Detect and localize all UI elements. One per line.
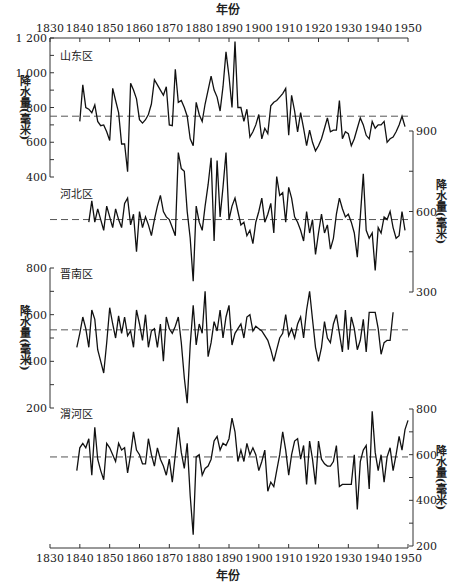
chart-panels: 4006008001 0001 200降水量(毫米)山东区300600900降水…: [16, 32, 449, 553]
top-x-tick-label: 1850: [96, 22, 124, 35]
y-axis-label: 降水量(毫米): [18, 74, 33, 140]
bottom-x-tick-label: 1840: [66, 552, 94, 565]
panel-name: 渭河区: [60, 408, 93, 421]
top-axis-title: 年份: [216, 2, 241, 17]
bottom-x-tick-label: 1880: [185, 552, 213, 565]
precipitation-chart: 1830184018501860187018801890190019101920…: [0, 0, 460, 588]
y-tick-label: 200: [416, 540, 437, 553]
top-x-tick-label: 1880: [185, 22, 213, 35]
top-x-tick-label: 1860: [126, 22, 154, 35]
panel-4: 200400600800降水量(毫米)渭河区: [50, 403, 449, 553]
bottom-x-tick-label: 1860: [126, 552, 154, 565]
bottom-x-tick-label: 1870: [155, 552, 183, 565]
y-tick-label: 200: [26, 402, 47, 415]
series-line: [89, 153, 405, 282]
top-x-axis: 1830184018501860187018801890190019101920…: [36, 22, 422, 42]
bottom-x-tick-label: 1940: [364, 552, 392, 565]
bottom-x-tick-label: 1920: [305, 552, 333, 565]
top-x-tick-label: 1920: [305, 22, 333, 35]
top-x-tick-label: 1950: [394, 22, 422, 35]
y-axis-label: 降水量(毫米): [434, 444, 449, 510]
panel-name: 晋南区: [60, 268, 93, 281]
top-x-tick-label: 1940: [364, 22, 392, 35]
series-line: [80, 42, 405, 172]
bottom-x-tick-label: 1900: [245, 552, 273, 565]
bottom-x-tick-label: 1890: [215, 552, 243, 565]
y-tick-label: 900: [416, 125, 437, 138]
top-x-tick-label: 1900: [245, 22, 273, 35]
panel-name: 山东区: [60, 50, 93, 63]
top-x-tick-label: 1910: [275, 22, 303, 35]
bottom-x-tick-label: 1950: [394, 552, 422, 565]
top-x-tick-label: 1930: [334, 22, 362, 35]
top-x-tick-label: 1870: [155, 22, 183, 35]
bottom-x-tick-label: 1910: [275, 552, 303, 565]
top-x-tick-label: 1840: [66, 22, 94, 35]
bottom-x-tick-label: 1850: [96, 552, 124, 565]
y-tick-label: 800: [26, 262, 47, 275]
panel-name: 河北区: [60, 188, 93, 201]
y-tick-label: 300: [416, 286, 437, 299]
y-axis-label: 降水量(毫米): [18, 304, 33, 370]
bottom-x-axis: 1830184018501860187018801890190019101920…: [36, 544, 422, 565]
y-tick-label: 1 200: [16, 32, 48, 45]
y-tick-label: 800: [416, 403, 437, 416]
y-axis-label: 降水量(毫米): [434, 178, 449, 244]
series-line: [77, 291, 393, 403]
series-line: [77, 411, 408, 534]
panel-2: 300600900降水量(毫米)河北区: [50, 125, 449, 299]
bottom-x-tick-label: 1930: [334, 552, 362, 565]
y-tick-label: 400: [26, 171, 47, 184]
bottom-x-tick-label: 1830: [36, 552, 64, 565]
panel-3: 200400600800降水量(毫米)晋南区: [18, 262, 409, 415]
top-x-tick-label: 1890: [215, 22, 243, 35]
bottom-axis-title: 年份: [216, 568, 241, 583]
